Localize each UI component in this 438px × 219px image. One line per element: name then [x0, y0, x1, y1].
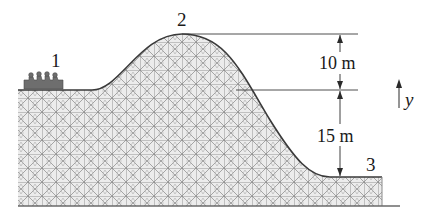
point-3-label: 3 [366, 155, 376, 174]
roller-coaster-diagram: 1 2 3 10 m 15 m y [0, 0, 438, 219]
y-axis-label: y [405, 90, 413, 109]
diagram-canvas [0, 0, 438, 219]
coaster-car-icon [24, 72, 63, 89]
point-2-label: 2 [177, 10, 187, 29]
point-1-label: 1 [51, 51, 61, 70]
y-axis-arrow-icon [396, 79, 402, 108]
dimension-15m-label: 15 m [317, 127, 354, 145]
dimension-10m-label: 10 m [319, 54, 356, 72]
